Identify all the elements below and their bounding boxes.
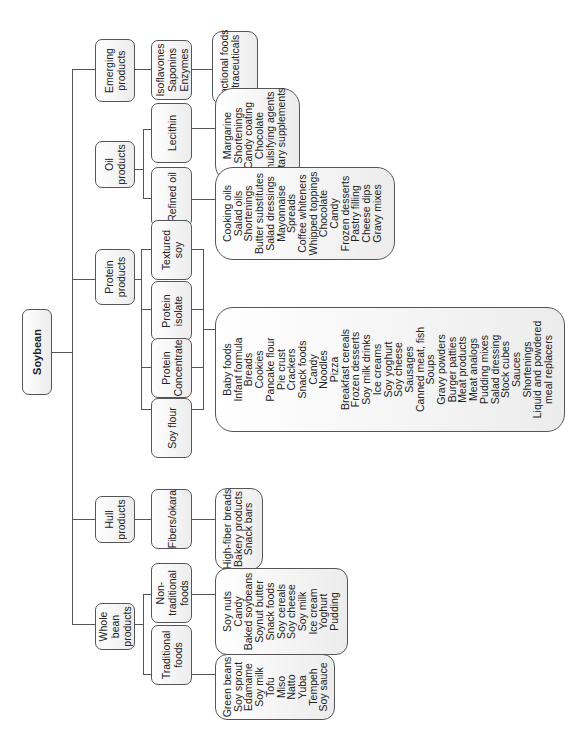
list-nontraditional-uses: Soy nuts Candy Baked soybeans Soynut but… xyxy=(215,568,348,655)
connector xyxy=(203,329,215,330)
connector xyxy=(192,409,203,410)
connector xyxy=(72,519,95,520)
connector xyxy=(192,594,215,595)
node-textured-soy: Textured soy xyxy=(151,220,192,280)
connector xyxy=(135,169,143,170)
node-traditional-foods: Traditional foods xyxy=(151,625,192,685)
node-nontraditional-foods: Non- traditional foods xyxy=(151,563,192,623)
node-protein-concentrate: Protein Concentrate xyxy=(151,338,192,398)
root-node-soybean: Soybean xyxy=(22,309,52,395)
connector xyxy=(192,249,203,250)
connector xyxy=(135,69,151,70)
connector xyxy=(141,249,151,250)
soybean-products-tree-diagram: Soybean Emerging products Oil products P… xyxy=(0,0,583,735)
connector xyxy=(143,594,151,595)
node-protein-isolate: Protein isolate xyxy=(151,281,192,341)
trunk-connector xyxy=(72,69,73,625)
connector xyxy=(192,199,215,200)
list-item: Soy sauce xyxy=(318,657,329,718)
list-item: Salad dressings xyxy=(265,171,276,255)
list-item: Gravy mixes xyxy=(372,171,383,255)
list-hull-uses: High-fiber breads Bakery products Snack … xyxy=(215,488,263,570)
connector xyxy=(192,519,215,520)
category-oil-products: Oil products xyxy=(95,141,135,188)
list-item: Pancake flour xyxy=(265,321,276,419)
connector xyxy=(141,409,151,410)
connector xyxy=(72,279,95,280)
connector xyxy=(192,367,203,368)
node-lecithin: Lecithin xyxy=(151,103,192,163)
connector xyxy=(192,128,215,129)
category-whole-bean-products: Whole bean products xyxy=(95,603,135,650)
connector xyxy=(135,624,143,625)
connector xyxy=(143,674,151,675)
connector xyxy=(192,309,203,310)
list-item: meal replacers xyxy=(543,321,554,419)
connector xyxy=(52,352,72,353)
connector xyxy=(192,674,215,675)
node-fibers-okara: Fibers/okara xyxy=(151,489,192,549)
node-refined-oil: Refined oil xyxy=(151,167,192,227)
list-item: Pudding mixes xyxy=(479,321,490,419)
connector xyxy=(72,69,95,70)
connector xyxy=(143,198,151,199)
list-traditional-uses: Green beans Soy sprout Edamame Soy milk … xyxy=(215,654,335,720)
connector xyxy=(135,519,151,520)
connector xyxy=(141,367,151,368)
list-item: Pudding xyxy=(329,573,340,651)
node-isoflavones-saponins-enzymes: Isoflavones Saponins Enzymes xyxy=(151,40,192,100)
list-protein-uses: Baby foods Infant formula Breads Cookies… xyxy=(215,307,565,432)
list-item: Tofu xyxy=(265,657,276,718)
category-protein-products: Protein products xyxy=(95,249,135,305)
connector xyxy=(141,309,151,310)
category-hull-products: Hull products xyxy=(95,496,135,543)
connector xyxy=(143,129,151,130)
connector xyxy=(143,595,144,675)
list-item: Snack foods xyxy=(265,573,276,651)
list-refined-oil-uses: Cooking oils Salad oils Shortenings Butt… xyxy=(215,167,395,260)
list-item: Ice creams xyxy=(372,321,383,419)
connector xyxy=(143,129,144,199)
connector xyxy=(141,249,142,410)
node-soy-flour: Soy flour xyxy=(151,398,192,458)
list-item: Snack bars xyxy=(243,489,254,570)
category-emerging-products: Emerging products xyxy=(95,39,135,102)
connector xyxy=(72,624,95,625)
